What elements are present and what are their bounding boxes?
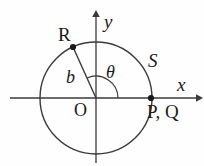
label-axis-y: y	[104, 12, 112, 31]
radius-segment-b	[73, 47, 96, 98]
y-axis-arrowhead	[92, 10, 100, 17]
y-axis	[92, 10, 100, 163]
label-point-S: S	[148, 51, 158, 70]
label-origin-O: O	[74, 101, 87, 119]
label-point-R: R	[58, 25, 71, 44]
label-axis-x: x	[177, 75, 185, 94]
label-angle-theta: θ	[106, 63, 115, 81]
label-point-PQ: P, Q	[147, 102, 179, 121]
label-radius-b: b	[66, 68, 75, 86]
x-axis-arrowhead	[196, 94, 203, 102]
circle-diagram-canvas	[0, 0, 204, 166]
geometry-figure: R y S x b θ O P, Q	[0, 0, 204, 166]
